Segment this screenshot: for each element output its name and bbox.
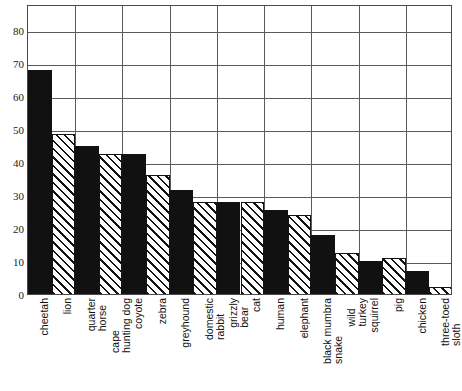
x-axis-tick-label: coyote [133, 298, 144, 329]
y-axis-tick-label: 20 [13, 224, 24, 235]
x-axis-label-line: cat [251, 298, 262, 312]
x-axis-label-line: domestic [204, 298, 215, 340]
plot-area [27, 5, 452, 295]
y-axis-tick-label: 70 [13, 59, 24, 70]
y-axis-tick-label: 0 [19, 290, 25, 301]
bar-elephant [288, 215, 312, 294]
x-axis-tick-slot: quarterhorse [74, 296, 98, 391]
x-axis-label-line: cape [110, 298, 121, 353]
bar-cape-hunting-dog [99, 154, 123, 294]
x-axis-tick-slot: capehunting dog [98, 296, 122, 391]
bar-lion [52, 134, 76, 294]
x-axis-tick-label: elephant [299, 298, 310, 338]
y-axis: 01020304050607080 [0, 0, 24, 391]
x-axis-label-line: chicken [417, 298, 428, 334]
x-axis-label-line: greyhound [180, 298, 191, 348]
y-axis-tick-label: 60 [13, 92, 24, 103]
x-axis-tick-slot: wildturkey [334, 296, 358, 391]
bar-cheetah [28, 70, 52, 294]
x-axis-tick-slot: greyhound [169, 296, 193, 391]
x-axis-tick-slot: lion [51, 296, 75, 391]
x-axis-tick-label: three-toedsloth [440, 298, 461, 346]
x-axis-tick-slot: domesticrabbit [192, 296, 216, 391]
bar-grizzly-bear [217, 202, 241, 294]
bar-wild-turkey [335, 253, 359, 294]
bar-quarter-horse [75, 146, 99, 294]
x-axis-label-line: grizzly [228, 298, 239, 328]
x-axis-tick-slot: zebra [145, 296, 169, 391]
bar-chicken [406, 271, 430, 294]
bar-coyote [122, 154, 146, 294]
bar-three-toed-sloth [429, 287, 452, 294]
bar-human [264, 210, 288, 294]
x-axis-tick-label: human [275, 298, 286, 330]
x-axis-label-line: squirrel [369, 298, 380, 332]
bar-cat [241, 202, 265, 294]
x-axis-tick-slot: pig [381, 296, 405, 391]
x-axis-tick-slot: coyote [121, 296, 145, 391]
x-axis-label-line: pig [393, 298, 404, 312]
x-axis-label-line: cheetah [39, 298, 50, 335]
x-axis-tick-slot: three-toedsloth [428, 296, 452, 391]
x-axis-tick-slot: cat [240, 296, 264, 391]
x-axis-tick-label: cheetah [39, 298, 50, 335]
x-axis-tick-label: cat [251, 298, 262, 312]
y-axis-tick-label: 80 [13, 26, 24, 37]
bar-squirrel [359, 261, 383, 294]
bar-series [28, 6, 451, 294]
y-axis-tick-label: 10 [13, 257, 24, 268]
x-axis-tick-label: pig [393, 298, 404, 312]
x-axis-tick-label: zebra [157, 298, 168, 324]
y-axis-tick-label: 30 [13, 191, 24, 202]
x-axis-tick-slot: chicken [405, 296, 429, 391]
x-axis-label-line: sloth [451, 298, 462, 346]
bar-domestic-rabbit [193, 202, 217, 294]
bar-greyhound [170, 190, 194, 294]
x-axis-tick-slot: elephant [287, 296, 311, 391]
x-axis-tick-label: squirrel [369, 298, 380, 332]
x-axis-tick-slot: cheetah [27, 296, 51, 391]
x-axis-tick-slot: black mumbrasnake [310, 296, 334, 391]
x-axis-tick-label: greyhound [180, 298, 191, 348]
x-axis-label-line: lion [62, 298, 73, 314]
x-axis-label-line: coyote [133, 298, 144, 329]
x-axis-label-line: human [275, 298, 286, 330]
x-axis-tick-label: lion [62, 298, 73, 314]
x-axis-label-line: wild [346, 298, 357, 327]
bar-zebra [146, 175, 170, 294]
x-axis-tick-label: chicken [417, 298, 428, 334]
y-axis-tick-label: 40 [13, 158, 24, 169]
bar-pig [382, 258, 406, 294]
x-axis-label-line: elephant [299, 298, 310, 338]
x-axis-tick-slot: human [263, 296, 287, 391]
x-axis: cheetahlionquarterhorsecapehunting dogco… [27, 296, 452, 391]
x-axis-tick-slot: grizzlybear [216, 296, 240, 391]
x-axis-label-line: quarter [86, 298, 97, 331]
x-axis-label-line: zebra [157, 298, 168, 324]
x-axis-tick-slot: squirrel [358, 296, 382, 391]
y-axis-tick-label: 50 [13, 125, 24, 136]
bar-black-mumbra-snake [311, 235, 335, 294]
